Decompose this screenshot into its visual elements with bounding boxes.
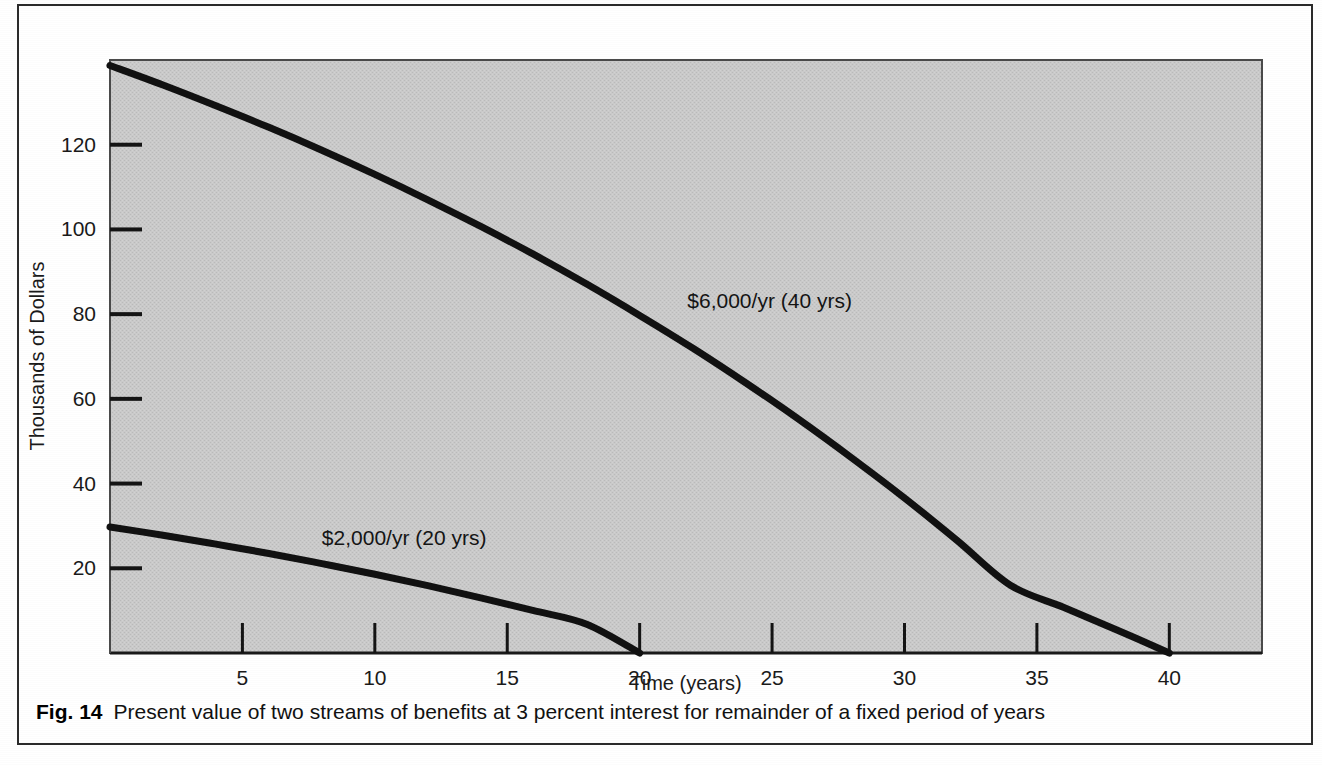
figure-caption: Fig. 14 Present value of two streams of … (36, 700, 1286, 734)
y-tick-label-20: 20 (73, 556, 96, 579)
x-tick-label-25: 25 (760, 666, 783, 689)
y-tick-label-120: 120 (61, 133, 96, 156)
series-annotation-6000: $6,000/yr (40 yrs) (687, 289, 852, 312)
y-tick-label-60: 60 (73, 387, 96, 410)
x-tick-label-35: 35 (1025, 666, 1048, 689)
figure-number: Fig. 14 (36, 700, 103, 724)
series-annotation-2000: $2,000/yr (20 yrs) (322, 526, 487, 549)
x-tick-label-5: 5 (237, 666, 249, 689)
x-tick-label-15: 15 (496, 666, 519, 689)
y-tick-label-80: 80 (73, 302, 96, 325)
x-tick-label-30: 30 (893, 666, 916, 689)
x-axis-title: Time (years) (630, 672, 741, 694)
y-tick-label-40: 40 (73, 472, 96, 495)
x-tick-label-10: 10 (363, 666, 386, 689)
figure-caption-text: Present value of two streams of benefits… (114, 700, 1045, 724)
chart-stage: 20406080100120 510152025303540 $6,000/yr… (0, 0, 1322, 765)
y-axis-tick-labels: 20406080100120 (61, 133, 96, 580)
y-tick-label-100: 100 (61, 217, 96, 240)
y-axis-title: Thousands of Dollars (26, 262, 48, 451)
figure-container: 20406080100120 510152025303540 $6,000/yr… (0, 0, 1322, 765)
x-tick-label-40: 40 (1158, 666, 1181, 689)
plot-area-background (110, 60, 1262, 653)
present-value-line-chart: 20406080100120 510152025303540 $6,000/yr… (0, 0, 1322, 765)
